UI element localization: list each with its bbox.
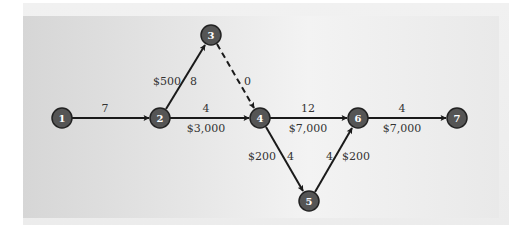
edge-2-4-cost: $3,000 [187, 122, 226, 135]
node-1: 1 [52, 108, 72, 128]
edge-3-4-time: 0 [244, 75, 251, 88]
edge-2-3-cost: $500 [153, 75, 181, 88]
edge-2-3-time: 8 [190, 75, 197, 88]
edge-4-6-cost: $7,000 [289, 122, 328, 135]
edge-5-6-time: 4 [326, 150, 333, 163]
edge-6-7-time: 4 [399, 102, 406, 115]
svg-text:2: 2 [157, 113, 164, 124]
node-4: 4 [250, 108, 270, 128]
svg-text:4: 4 [257, 113, 264, 124]
edge-2-4-time: 4 [203, 102, 210, 115]
node-7: 7 [447, 108, 467, 128]
edge-4-5-time: 4 [287, 150, 294, 163]
node-3: 3 [201, 25, 221, 45]
edge-4-5-cost: $200 [248, 150, 276, 163]
svg-text:6: 6 [355, 113, 362, 124]
edge-4-6-time: 12 [301, 102, 315, 115]
edge-6-7-cost: $7,000 [383, 122, 422, 135]
svg-text:7: 7 [454, 113, 461, 124]
edge-5-6-cost: $200 [342, 150, 370, 163]
svg-text:1: 1 [59, 113, 66, 124]
node-5: 5 [299, 191, 319, 211]
svg-text:5: 5 [306, 196, 313, 207]
node-2: 2 [150, 108, 170, 128]
edge-1-2-time: 7 [102, 102, 109, 115]
network-diagram: 7 $500 8 0 4 $3,000 12 $7,000 $200 4 4 $… [0, 0, 526, 228]
node-6: 6 [348, 108, 368, 128]
svg-text:3: 3 [208, 30, 215, 41]
